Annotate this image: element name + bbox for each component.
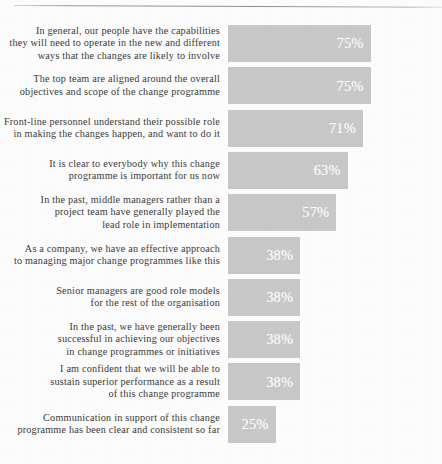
chart-row: The top team are aligned around the over… <box>0 67 442 104</box>
category-label-line: In the past, we have generally been <box>0 321 220 333</box>
bar-track: 25% <box>228 406 442 443</box>
bar-track: 57% <box>228 194 442 231</box>
category-label-line: they will need to operate in the new and… <box>0 37 220 49</box>
category-label-line: In the past, middle managers rather than… <box>0 194 220 206</box>
category-label-line: objectives and scope of the change progr… <box>0 86 220 98</box>
bar: 75% <box>228 67 371 104</box>
category-label-line: successful in achieving our objectives <box>0 333 220 345</box>
bar-value-label: 57% <box>302 205 329 220</box>
bar-value-label: 38% <box>266 375 293 390</box>
category-label-line: Senior managers are good role models <box>0 285 220 297</box>
category-label-line: programme has been clear and consistent … <box>0 424 220 436</box>
bar: 71% <box>228 110 363 147</box>
bar-value-label: 75% <box>336 79 363 94</box>
category-label-line: in making the changes happen, and want t… <box>0 128 220 140</box>
category-label-line: I am confident that we will be able to <box>0 363 220 375</box>
bar: 38% <box>228 237 300 274</box>
category-label-line: programme is important for us now <box>0 170 220 182</box>
bar-track: 71% <box>228 110 442 147</box>
bar: 38% <box>228 279 300 316</box>
chart-row: Communication in support of this changep… <box>0 406 442 443</box>
bar-track: 38% <box>228 363 442 400</box>
bar-value-label: 38% <box>266 290 293 305</box>
category-label-line: The top team are aligned around the over… <box>0 73 220 85</box>
category-label-line: project team have generally played the <box>0 206 220 218</box>
bar-value-label: 71% <box>329 121 356 136</box>
category-label: Front-line personnel understand their po… <box>0 116 228 141</box>
category-label: Senior managers are good role modelsfor … <box>0 285 228 310</box>
bar-track: 38% <box>228 279 442 316</box>
horizontal-bar-chart: In general, our people have the capabili… <box>0 0 442 464</box>
chart-row: I am confident that we will be able tosu… <box>0 363 442 400</box>
category-label-line: Front-line personnel understand their po… <box>0 116 220 128</box>
category-label: I am confident that we will be able tosu… <box>0 363 228 400</box>
category-label-line: for the rest of the organisation <box>0 297 220 309</box>
bar-value-label: 75% <box>336 36 363 51</box>
bar-value-label: 38% <box>266 332 293 347</box>
bar-value-label: 63% <box>314 163 341 178</box>
chart-row: In the past, we have generally beensucce… <box>0 321 442 358</box>
bar: 63% <box>228 152 348 189</box>
bar-value-label: 25% <box>241 417 268 432</box>
chart-row: In general, our people have the capabili… <box>0 25 442 62</box>
bar-track: 38% <box>228 237 442 274</box>
chart-row: In the past, middle managers rather than… <box>0 194 442 231</box>
category-label: Communication in support of this changep… <box>0 412 228 437</box>
bar-track: 75% <box>228 25 442 62</box>
chart-page: In general, our people have the capabili… <box>0 0 442 464</box>
category-label-line: As a company, we have an effective appro… <box>0 243 220 255</box>
category-label: In general, our people have the capabili… <box>0 25 228 62</box>
bar: 25% <box>228 406 276 443</box>
category-label: As a company, we have an effective appro… <box>0 243 228 268</box>
category-label-line: sustain superior performance as a result <box>0 376 220 388</box>
bar-track: 75% <box>228 67 442 104</box>
chart-row: Senior managers are good role modelsfor … <box>0 279 442 316</box>
chart-row: As a company, we have an effective appro… <box>0 237 442 274</box>
bar-track: 63% <box>228 152 442 189</box>
bar: 57% <box>228 194 336 231</box>
category-label-line: It is clear to everybody why this change <box>0 158 220 170</box>
category-label-line: of this change programme <box>0 388 220 400</box>
category-label-line: to managing major change programmes like… <box>0 255 220 267</box>
category-label-line: lead role in implementation <box>0 219 220 231</box>
category-label: It is clear to everybody why this change… <box>0 158 228 183</box>
category-label: The top team are aligned around the over… <box>0 73 228 98</box>
chart-row: Front-line personnel understand their po… <box>0 110 442 147</box>
bar: 75% <box>228 25 371 62</box>
category-label-line: in change programmes or initiatives <box>0 346 220 358</box>
category-label-line: Communication in support of this change <box>0 412 220 424</box>
bar: 38% <box>228 321 300 358</box>
category-label: In the past, we have generally beensucce… <box>0 321 228 358</box>
bar-track: 38% <box>228 321 442 358</box>
category-label: In the past, middle managers rather than… <box>0 194 228 231</box>
category-label-line: ways that the changes are likely to invo… <box>0 50 220 62</box>
category-label-line: In general, our people have the capabili… <box>0 25 220 37</box>
chart-row: It is clear to everybody why this change… <box>0 152 442 189</box>
bar: 38% <box>228 363 300 400</box>
bar-value-label: 38% <box>266 248 293 263</box>
